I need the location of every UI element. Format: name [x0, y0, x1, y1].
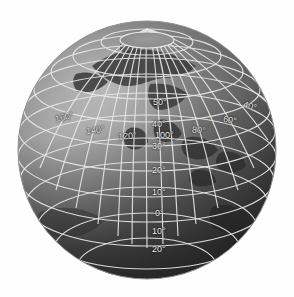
latitude-label-30: 30° — [152, 142, 166, 151]
latitude-label-10n: 10° — [152, 188, 166, 197]
latitude-label-20n: 20° — [152, 166, 166, 175]
longitude-label-80: 80° — [192, 125, 206, 135]
longitude-label-120: 120° — [118, 131, 137, 141]
globe-figure: 50° 40° 30° 20° 10° 0° 10° 20° 160° 140°… — [0, 0, 294, 297]
latitude-label-10s: 10° — [152, 227, 166, 236]
latitude-label-50: 50° — [153, 98, 167, 107]
latitude-label-20s: 20° — [152, 245, 166, 254]
globe-graphic — [0, 0, 294, 297]
longitude-label-100: 100° — [155, 131, 174, 140]
latitude-label-0: 0° — [155, 209, 164, 218]
polar-cap — [120, 32, 174, 48]
latitude-label-40: 40° — [152, 120, 166, 129]
